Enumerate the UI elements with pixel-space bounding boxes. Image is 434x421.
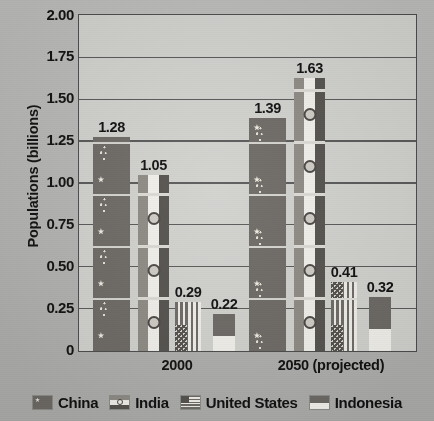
legend-label: China	[58, 394, 98, 411]
legend-label: Indonesia	[335, 394, 402, 411]
legend-label: United States	[206, 394, 298, 411]
flag-tile-seam	[294, 193, 325, 196]
y-tick-0-50: 0.50	[22, 257, 74, 274]
flag-tile-seam	[249, 298, 286, 300]
flag-tile-seam	[294, 297, 325, 300]
legend-item-china[interactable]: China	[32, 394, 98, 411]
legend-item-united-states[interactable]: United States	[180, 394, 298, 411]
india-chakra-icon	[147, 212, 160, 225]
india-chakra-icon	[147, 264, 160, 277]
india-chakra-icon	[303, 316, 316, 329]
flag-tile-seam	[249, 246, 286, 248]
china-star-icon	[253, 332, 260, 339]
gridline	[79, 57, 416, 58]
china-flag-fill	[249, 118, 286, 351]
y-tick-1-75: 1.75	[22, 47, 74, 64]
bar-value-label: 0.29	[167, 284, 209, 300]
bar-value-label: 1.05	[130, 157, 177, 173]
bar-value-label: 1.28	[85, 119, 138, 135]
indonesia-flag-icon	[309, 395, 330, 410]
flag-tile-seam	[294, 141, 325, 144]
united-states-flag-fill	[175, 302, 201, 351]
bar-value-label: 0.32	[361, 279, 399, 295]
flag-tile-seam	[249, 194, 286, 196]
china-star-icon	[97, 280, 104, 287]
y-tick-1-00: 1.00	[22, 173, 74, 190]
usa-flag-icon	[180, 395, 201, 410]
china-star-icon	[97, 228, 104, 235]
plot-area: 1.281.050.290.221.391.630.410.32	[78, 14, 417, 352]
india-chakra-icon	[303, 108, 316, 121]
usa-canton-icon	[331, 325, 343, 351]
usa-canton-icon	[331, 282, 343, 299]
flag-tile-seam	[249, 142, 286, 144]
x-axis-label-2000: 2000	[122, 357, 232, 373]
bar-value-label: 0.22	[205, 296, 243, 312]
flag-tile-seam	[138, 297, 169, 300]
india-chakra-icon	[303, 160, 316, 173]
bar-value-label: 1.39	[241, 100, 294, 116]
india-chakra-icon	[303, 264, 316, 277]
legend-item-indonesia[interactable]: Indonesia	[309, 394, 402, 411]
chart-legend: ChinaIndiaUnited StatesIndonesia	[0, 390, 434, 414]
flag-tile-seam	[294, 245, 325, 248]
india-flag-fill	[294, 78, 325, 351]
flag-tile-seam	[93, 298, 130, 300]
china-flag-fill	[93, 137, 130, 351]
indonesia-flag-fill	[213, 314, 235, 351]
bar-value-label: 0.41	[323, 264, 365, 280]
china-star-icon	[253, 228, 260, 235]
flag-tile-seam	[93, 246, 130, 248]
x-axis-label-2050: 2050 (projected)	[256, 357, 406, 373]
india-chakra-icon	[147, 316, 160, 329]
y-tick-1-25: 1.25	[22, 131, 74, 148]
legend-item-india[interactable]: India	[109, 394, 169, 411]
china-star-icon	[253, 124, 260, 131]
indonesia-flag-fill	[369, 297, 391, 351]
china-star-icon	[97, 332, 104, 339]
y-tick-0-75: 0.75	[22, 215, 74, 232]
flag-tile-seam	[93, 142, 130, 144]
bar-indonesia-2000[interactable]	[213, 314, 235, 351]
flag-tile-seam	[138, 193, 169, 196]
china-star-icon	[253, 176, 260, 183]
indonesia-red-band	[213, 314, 235, 335]
bar-indonesia-2050[interactable]	[369, 297, 391, 351]
bar-united-states-2050[interactable]	[331, 282, 357, 351]
population-bar-chart: Populations (billions) 2.00 1.75 1.50 1.…	[0, 0, 434, 421]
y-tick-2-00: 2.00	[22, 6, 74, 23]
y-tick-0: 0	[22, 341, 74, 358]
flag-tile-seam	[93, 194, 130, 196]
usa-canton-icon	[175, 325, 187, 351]
bar-value-label: 1.63	[286, 60, 333, 76]
bar-united-states-2000[interactable]	[175, 302, 201, 351]
legend-label: India	[135, 394, 169, 411]
bar-china-2000[interactable]	[93, 137, 130, 351]
india-flag-icon	[109, 395, 130, 410]
china-star-icon	[97, 176, 104, 183]
y-tick-1-50: 1.50	[22, 89, 74, 106]
bar-india-2050[interactable]	[294, 78, 325, 351]
y-axis-tick-labels: 2.00 1.75 1.50 1.25 1.00 0.75 0.50 0.25 …	[22, 0, 74, 421]
indonesia-red-band	[369, 297, 391, 328]
y-tick-0-25: 0.25	[22, 299, 74, 316]
china-star-icon	[253, 280, 260, 287]
flag-tile-seam	[294, 89, 325, 92]
flag-tile-seam	[138, 245, 169, 248]
flag-tile-seam	[331, 298, 357, 300]
united-states-flag-fill	[331, 282, 357, 351]
india-flag-fill	[138, 175, 169, 351]
bar-china-2050[interactable]	[249, 118, 286, 351]
bar-india-2000[interactable]	[138, 175, 169, 351]
india-chakra-icon	[303, 212, 316, 225]
china-flag-icon	[32, 395, 53, 410]
